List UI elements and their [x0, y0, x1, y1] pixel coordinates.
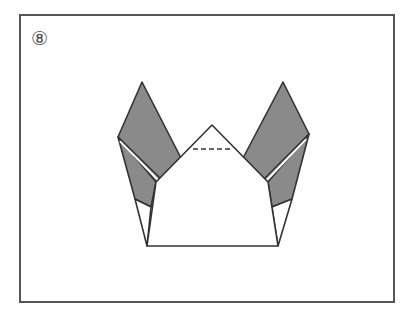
- origami-diagram: [0, 0, 402, 313]
